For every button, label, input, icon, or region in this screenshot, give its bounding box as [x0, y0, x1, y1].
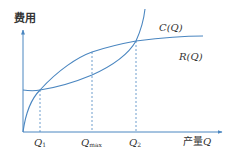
tick-qmax-sub: max — [89, 141, 102, 148]
c-curve-label: C(Q) — [159, 23, 183, 33]
tick-qmax: Qmax — [81, 138, 102, 148]
r-curve-label: R(Q) — [179, 52, 203, 62]
tick-q2-var: Q — [129, 137, 137, 148]
tick-q1: Q1 — [34, 138, 46, 148]
c-curve — [23, 9, 145, 91]
tick-q2: Q2 — [129, 138, 141, 148]
x-axis-label-var: Q — [203, 136, 211, 147]
tick-q1-sub: 1 — [42, 141, 46, 148]
tick-qmax-var: Q — [81, 137, 89, 148]
tick-q1-var: Q — [34, 137, 42, 148]
r-curve — [23, 36, 203, 132]
x-axis-label: 产量Q — [183, 137, 211, 147]
x-axis-label-text: 产量 — [183, 136, 203, 147]
tick-q2-sub: 2 — [137, 141, 141, 148]
y-axis-label: 费用 — [14, 13, 36, 24]
